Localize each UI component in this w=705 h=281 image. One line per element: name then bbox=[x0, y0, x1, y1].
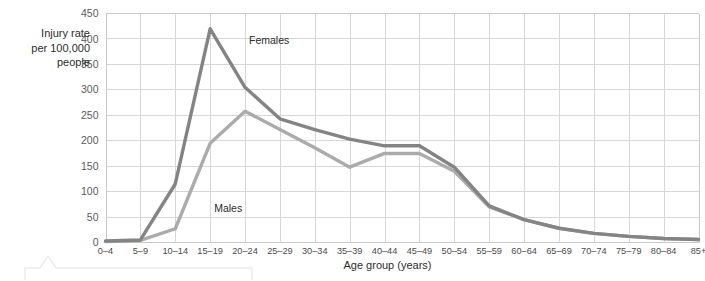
x-tick-label: 85+ bbox=[691, 246, 705, 256]
data-line-males bbox=[106, 111, 699, 241]
x-tick-label: 25–29 bbox=[267, 246, 293, 256]
data-line-females bbox=[106, 29, 699, 241]
y-tick-label: 250 bbox=[81, 109, 99, 121]
x-axis-title-text: Age group (years) bbox=[343, 259, 431, 271]
y-tick-label: 300 bbox=[81, 83, 99, 95]
x-tick-label: 40–44 bbox=[372, 246, 398, 256]
x-tick-label: 50–54 bbox=[442, 246, 468, 256]
horizontal-gridlines bbox=[106, 14, 699, 243]
x-tick-labels: 0–45–910–1415–1920–2425–2930–3435–3940–4… bbox=[98, 246, 705, 256]
y-tick-label: 150 bbox=[81, 160, 99, 172]
y-tick-label: 100 bbox=[81, 185, 99, 197]
plot-area: 050100150200250300350400450 0–45–910–141… bbox=[0, 0, 705, 281]
x-tick-label: 10–14 bbox=[162, 246, 188, 256]
chart-figure: Injury rate per 100,000 people Age group… bbox=[0, 0, 705, 281]
x-tick-label: 5–9 bbox=[133, 246, 148, 256]
x-tick-label: 80–84 bbox=[651, 246, 677, 256]
y-tick-label: 50 bbox=[87, 211, 99, 223]
x-tick-label: 30–34 bbox=[302, 246, 328, 256]
x-tick-label: 0–4 bbox=[98, 246, 113, 256]
x-axis-title: Age group (years) bbox=[0, 259, 705, 271]
x-tick-label: 60–64 bbox=[511, 246, 537, 256]
y-tick-label: 450 bbox=[81, 7, 99, 19]
data-lines bbox=[106, 29, 699, 242]
y-tick-label: 200 bbox=[81, 134, 99, 146]
y-axis-title: Injury rate per 100,000 people bbox=[4, 26, 90, 70]
x-tick-label: 35–39 bbox=[337, 246, 363, 256]
annotation-males: Males bbox=[214, 202, 242, 214]
series-annotations: FemalesMales bbox=[214, 34, 289, 214]
x-tick-label: 55–59 bbox=[476, 246, 502, 256]
x-tick-label: 65–69 bbox=[546, 246, 572, 256]
x-tick-label: 75–79 bbox=[616, 246, 642, 256]
x-tick-label: 20–24 bbox=[232, 246, 258, 256]
x-tick-label: 15–19 bbox=[197, 246, 223, 256]
vertical-gridlines bbox=[107, 14, 700, 243]
x-tick-label: 70–74 bbox=[581, 246, 607, 256]
annotation-females: Females bbox=[249, 34, 289, 46]
x-tick-label: 45–49 bbox=[407, 246, 433, 256]
